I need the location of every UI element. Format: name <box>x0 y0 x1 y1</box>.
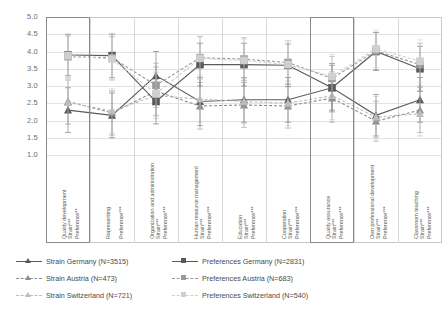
chart-container: 5.04.54.03.53.02.52.01.51.0 Quality deve… <box>0 0 446 316</box>
highlight-box <box>310 17 354 243</box>
x-axis-category-label: Own professional developmentStrain***Pre… <box>369 165 388 239</box>
legend-label: Preferences Switzerland (N=540) <box>202 291 308 300</box>
legend-label: Preferences Austria (N=683) <box>202 274 293 283</box>
x-axis-category-label: Organization and administrationStrain***… <box>149 163 168 239</box>
x-axis-category-label: Classroom teachingStrain***Preference*** <box>413 191 432 239</box>
legend-marker-square-icon <box>181 258 186 263</box>
legend-marker-square-icon <box>181 275 186 280</box>
data-point-marker <box>196 55 204 63</box>
legend-label: Preferences Germany (N=2831) <box>202 257 304 266</box>
x-axis-category-label: Human resource managementStrain***Prefer… <box>193 166 212 239</box>
legend-marker-triangle-icon <box>25 258 31 263</box>
highlight-box <box>46 17 90 243</box>
data-point-marker <box>372 45 380 53</box>
x-label-line: Preference*** <box>294 206 300 239</box>
legend-marker-square-icon <box>181 292 186 297</box>
legend-label: Strain Austria (N=473) <box>46 274 117 283</box>
data-point-marker <box>152 90 160 98</box>
x-axis-category-label: Representing Preference*** <box>105 206 124 239</box>
x-label-line: Preference*** <box>118 206 124 239</box>
data-point-marker <box>240 57 248 65</box>
x-label-line: Preference*** <box>206 166 212 239</box>
x-label-line: Preference*** <box>426 191 432 239</box>
x-axis-category-label: CooperationStrain***Preference*** <box>281 206 300 239</box>
legend-marker-triangle-icon <box>25 292 31 297</box>
x-axis-category-label: EducationStrain***Preference*** <box>237 206 256 239</box>
x-label-line: Representing <box>105 206 111 239</box>
x-label-line: Preference*** <box>250 206 256 239</box>
data-point-marker <box>108 55 116 63</box>
data-point-marker <box>284 61 292 69</box>
x-label-line: Preference*** <box>382 165 388 239</box>
x-label-line: Preference*** <box>162 163 168 239</box>
legend-label: Strain Switzerland (N=721) <box>46 291 132 300</box>
data-point-marker <box>416 57 424 65</box>
legend-marker-triangle-icon <box>25 275 31 280</box>
legend-label: Strain Germany (N=3515) <box>46 257 129 266</box>
